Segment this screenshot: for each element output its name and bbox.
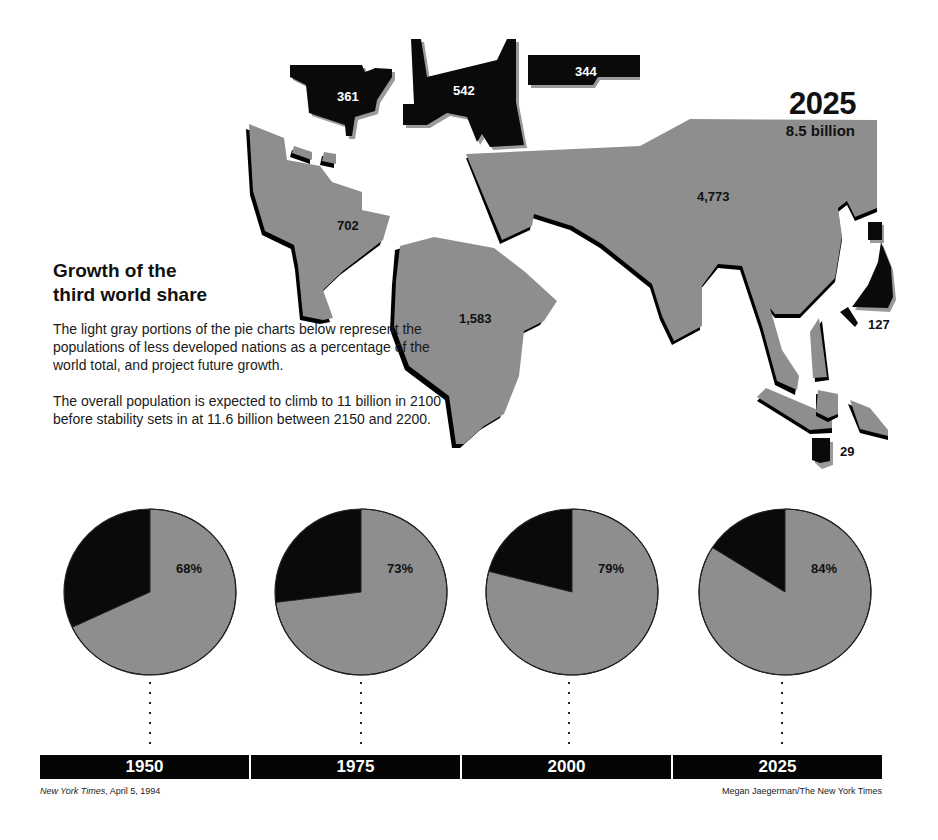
pie-chart-1975: 73% xyxy=(273,507,449,677)
pie-percent-label: 84% xyxy=(811,561,837,576)
chart-title: Growth of the third world share xyxy=(53,259,207,307)
source-publication: New York Times xyxy=(40,786,105,796)
title-line-1: Growth of the xyxy=(53,259,207,283)
pie-1975-svg: 73% xyxy=(273,507,449,677)
pie-1950-svg: 68% xyxy=(62,507,238,677)
region-australia: 29 xyxy=(812,438,854,469)
label-asia: 4,773 xyxy=(697,189,730,204)
region-latin-america: 702 xyxy=(246,124,390,324)
artist-credit: Megan Jaegerman/The New York Times xyxy=(722,786,882,796)
connector-1950 xyxy=(149,682,151,752)
pie-2025-svg: 84% xyxy=(697,507,873,677)
label-australia: 29 xyxy=(840,444,854,459)
label-europe: 542 xyxy=(453,83,475,98)
connector-1975 xyxy=(360,682,362,752)
connector-2025 xyxy=(781,682,783,752)
label-north-america: 361 xyxy=(337,89,359,104)
pie-percent-label: 79% xyxy=(598,561,624,576)
source-date: , April 5, 1994 xyxy=(105,786,160,796)
pie-percent-label: 73% xyxy=(387,561,413,576)
description-paragraph-1: The light gray portions of the pie chart… xyxy=(53,320,448,374)
pie-chart-2000: 79% xyxy=(484,507,660,677)
timeline-year-2025: 2025 xyxy=(673,755,882,779)
label-africa: 1,583 xyxy=(459,311,492,326)
pie-percent-label: 68% xyxy=(176,561,202,576)
timeline-bar: 1950 1975 2000 2025 xyxy=(40,755,882,779)
title-line-2: third world share xyxy=(53,283,207,307)
label-latin-america: 702 xyxy=(337,218,359,233)
timeline-year-1975: 1975 xyxy=(251,755,462,779)
timeline-year-1950: 1950 xyxy=(40,755,251,779)
source-credit: New York Times, April 5, 1994 xyxy=(40,786,160,796)
label-japan: 127 xyxy=(868,317,890,332)
pie-chart-1950: 68% xyxy=(62,507,238,677)
region-japan: 127 xyxy=(840,222,896,332)
connector-2000 xyxy=(568,682,570,752)
region-north-america: 361 xyxy=(290,65,395,139)
timeline-year-2000: 2000 xyxy=(462,755,673,779)
pie-chart-2025: 84% xyxy=(697,507,873,677)
description-paragraph-2: The overall population is expected to cl… xyxy=(53,392,448,428)
headline-population: 8.5 billion xyxy=(786,122,855,139)
region-fsu: 344 xyxy=(528,55,640,88)
pie-2000-svg: 79% xyxy=(484,507,660,677)
region-europe: 542 xyxy=(403,39,527,150)
description: The light gray portions of the pie chart… xyxy=(53,320,448,446)
label-fsu: 344 xyxy=(575,64,597,79)
headline-year: 2025 xyxy=(789,88,856,120)
